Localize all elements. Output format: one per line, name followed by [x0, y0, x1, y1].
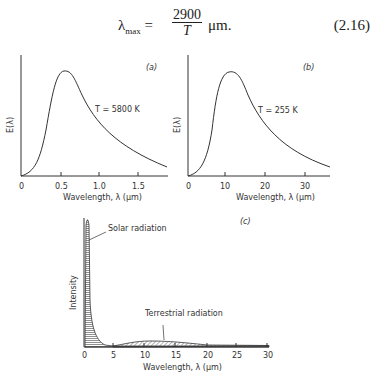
svg-text:1.5: 1.5 — [132, 182, 145, 191]
curve — [21, 71, 167, 176]
svg-text:20: 20 — [260, 182, 270, 191]
x-ticks — [225, 172, 305, 176]
svg-text:10: 10 — [140, 351, 150, 360]
x-axis-label: Wavelength, λ (μm) — [236, 193, 315, 202]
svg-text:0: 0 — [19, 182, 24, 191]
svg-text:1.0: 1.0 — [93, 182, 106, 191]
solar-label: Solar radiation — [108, 224, 167, 233]
svg-text:25: 25 — [232, 351, 242, 360]
y-axis-label: E(λ) — [6, 117, 15, 133]
x-tick-labels: 0 10 20 30 — [186, 182, 310, 191]
panel-b: (b) T = 255 K E(λ) 0 10 20 30 Wavelength… — [173, 55, 330, 202]
y-axis-label: E(λ) — [173, 117, 182, 133]
terrestrial-leader-line — [163, 325, 164, 340]
x-ticks — [61, 172, 138, 176]
solar-leader-line — [89, 232, 106, 240]
y-axis-label: Intensity — [69, 275, 78, 310]
svg-text:0: 0 — [82, 351, 87, 360]
svg-text:0.5: 0.5 — [55, 182, 68, 191]
svg-text:0: 0 — [186, 182, 191, 191]
panel-label: (a) — [146, 63, 157, 72]
figure: (a) T = 5800 K E(λ) 0 0.5 1.0 1.5 Wavele… — [0, 0, 378, 378]
solar-radiation-area — [85, 220, 269, 347]
x-tick-labels: 0 0.5 1.0 1.5 — [19, 182, 145, 191]
panel-label: (b) — [303, 63, 314, 72]
annotation: T = 255 K — [257, 106, 298, 115]
svg-text:30: 30 — [300, 182, 310, 191]
svg-text:15: 15 — [171, 351, 181, 360]
panel-a: (a) T = 5800 K E(λ) 0 0.5 1.0 1.5 Wavele… — [6, 55, 168, 202]
svg-text:20: 20 — [203, 351, 213, 360]
svg-text:10: 10 — [220, 182, 230, 191]
x-axis-label: Wavelength, λ (μm) — [63, 193, 142, 202]
annotation: T = 5800 K — [94, 105, 141, 114]
svg-text:30: 30 — [263, 351, 273, 360]
panel-label: (c) — [240, 217, 251, 226]
x-tick-labels: 0 5 10 15 20 25 30 — [82, 351, 273, 360]
terrestrial-radiation-area — [113, 341, 269, 347]
terrestrial-label: Terrestrial radiation — [144, 309, 223, 318]
svg-text:5: 5 — [111, 351, 116, 360]
curve — [188, 72, 330, 176]
panel-c: Solar radiation Terrestrial radiation (c… — [69, 217, 273, 372]
x-axis-label: Wavelength, λ (μm) — [143, 363, 222, 372]
